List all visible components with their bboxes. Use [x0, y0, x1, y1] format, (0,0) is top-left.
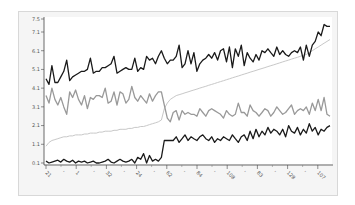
y-tick-label: 6.1: [32, 48, 40, 54]
x-tick-label: 128: [286, 169, 297, 180]
x-minor-tick-mark: ’: [181, 169, 187, 175]
x-tick-label: 62: [165, 169, 174, 178]
x-minor-tick-mark: ’: [90, 169, 96, 175]
y-tick-label: 5.1: [32, 66, 40, 72]
plot-area: [44, 17, 332, 164]
x-tick-label: 83: [256, 169, 265, 178]
x-tick-label: 107: [316, 169, 327, 180]
x-tick-label: 32: [105, 169, 114, 178]
x-tick-label: 108: [225, 169, 236, 180]
y-tick-label: 3.1: [32, 104, 40, 110]
y-tick-label: 7.1: [32, 29, 40, 35]
y-tick-label: 2.1: [32, 122, 40, 128]
x-minor-tick-mark: ’: [60, 169, 66, 175]
y-tick-label: 0.1: [32, 160, 40, 166]
y-tick-label: 7.5: [32, 16, 40, 22]
x-tick-label: 84: [195, 169, 204, 178]
x-tick-label: 24: [135, 169, 144, 178]
x-tick-label: 1: [74, 169, 80, 175]
x-tick-label: 21: [44, 169, 53, 178]
x-minor-tick-mark: ’: [302, 169, 308, 175]
x-minor-tick-mark: ’: [151, 169, 157, 175]
x-minor-tick-mark: ’: [241, 169, 247, 175]
y-tick-label: 4.1: [32, 85, 40, 91]
line-chart: 0.11.12.13.14.15.16.17.17.5’21’1’32’24’6…: [0, 0, 355, 205]
y-tick-label: 1.1: [32, 141, 40, 147]
x-minor-tick-mark: ’: [272, 169, 278, 175]
x-minor-tick-mark: ’: [121, 169, 127, 175]
x-minor-tick-mark: ’: [211, 169, 217, 175]
